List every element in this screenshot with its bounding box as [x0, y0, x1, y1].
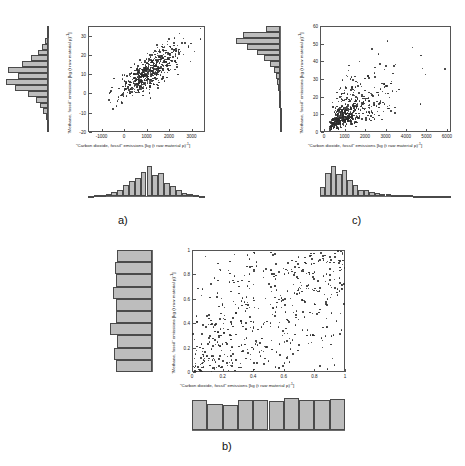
scatter-point	[288, 272, 290, 274]
scatter-point	[270, 304, 272, 306]
scatter-point	[263, 363, 265, 365]
scatter-point	[229, 261, 231, 263]
scatter-point	[197, 366, 199, 368]
scatter-point	[281, 307, 283, 309]
scatter-point	[232, 346, 234, 348]
scatter-point	[135, 74, 137, 76]
scatter-point	[181, 42, 183, 44]
scatter-point	[326, 318, 328, 320]
y-tick-label-a: 10	[72, 72, 86, 77]
scatter-point	[282, 330, 284, 332]
scatter-point	[208, 324, 210, 326]
scatter-point	[171, 52, 173, 54]
scatter-point	[338, 260, 340, 262]
scatter-point	[368, 107, 370, 109]
scatter-point	[154, 73, 156, 75]
scatter-point	[253, 321, 255, 323]
scatter-point	[299, 292, 301, 294]
scatter-point	[201, 295, 203, 297]
scatter-points-b	[192, 250, 345, 372]
scatter-point	[265, 298, 267, 300]
scatter-point	[174, 37, 176, 39]
scatter-point	[368, 100, 370, 102]
scatter-point	[169, 54, 171, 56]
scatter-point	[329, 268, 331, 270]
scatter-point	[150, 97, 152, 99]
scatter-point	[287, 262, 289, 264]
scatter-point	[329, 262, 331, 264]
scatter-point	[371, 48, 373, 50]
scatter-point	[387, 40, 389, 42]
scatter-point	[297, 290, 299, 292]
scatter-point	[291, 260, 293, 262]
scatter-point	[365, 119, 367, 121]
scatter-point	[347, 116, 349, 118]
scatter-point	[164, 47, 166, 49]
scatter-point	[152, 67, 154, 69]
scatter-point	[210, 320, 212, 322]
scatter-point	[291, 271, 293, 273]
scatter-point	[257, 329, 259, 331]
scatter-point	[305, 263, 307, 265]
scatter-point	[110, 91, 112, 93]
scatter-point	[355, 109, 357, 111]
y-histogram-bar	[15, 85, 48, 91]
scatter-point	[251, 371, 253, 372]
scatter-point	[157, 53, 159, 55]
scatter-point	[249, 273, 251, 275]
scatter-point	[365, 117, 367, 119]
scatter-point	[183, 38, 185, 40]
scatter-point	[374, 87, 376, 89]
scatter-point	[222, 343, 224, 345]
scatter-point	[162, 65, 164, 67]
scatter-point	[196, 350, 198, 352]
scatter-point	[155, 59, 157, 61]
scatter-point	[281, 297, 283, 299]
scatter-point	[217, 292, 219, 294]
scatter-point	[201, 343, 203, 345]
scatter-point	[319, 287, 321, 289]
scatter-point	[177, 45, 179, 47]
scatter-point	[197, 288, 199, 290]
scatter-point	[143, 87, 145, 89]
scatter-point	[235, 359, 237, 361]
scatter-point	[237, 281, 239, 283]
scatter-point	[384, 103, 386, 105]
y-histogram-bar	[279, 97, 281, 103]
scatter-point	[202, 288, 204, 290]
scatter-point	[202, 351, 204, 353]
scatter-point	[374, 118, 376, 120]
scatter-point	[387, 106, 389, 108]
scatter-point	[365, 99, 367, 101]
scatter-point	[361, 94, 363, 96]
scatter-point	[390, 110, 392, 112]
scatter-point	[355, 126, 357, 128]
scatter-point	[221, 350, 223, 352]
scatter-point	[232, 353, 234, 355]
scatter-point	[326, 304, 328, 306]
scatter-point	[134, 70, 136, 72]
scatter-point	[380, 88, 382, 90]
x-tick-label-a: 3000	[186, 134, 196, 139]
y-tick-label-a: 20	[72, 52, 86, 57]
scatter-point	[249, 316, 251, 318]
scatter-point	[232, 326, 234, 328]
scatter-point	[373, 102, 375, 104]
scatter-point	[274, 297, 276, 299]
scatter-point	[300, 288, 302, 290]
scatter-point	[306, 273, 308, 275]
y-histogram-bar	[116, 360, 152, 372]
scatter-point	[250, 354, 252, 356]
scatter-point	[176, 66, 178, 68]
x-tick-label-a: 1000	[141, 134, 151, 139]
scatter-point	[266, 346, 268, 348]
scatter-point	[342, 123, 344, 125]
scatter-point	[340, 122, 342, 124]
scatter-point	[379, 63, 381, 65]
scatter-point	[343, 303, 345, 305]
scatter-point	[183, 54, 185, 56]
scatter-point	[214, 369, 216, 371]
scatter-point	[153, 83, 155, 85]
scatter-point	[330, 259, 332, 261]
scatter-point	[205, 326, 207, 328]
